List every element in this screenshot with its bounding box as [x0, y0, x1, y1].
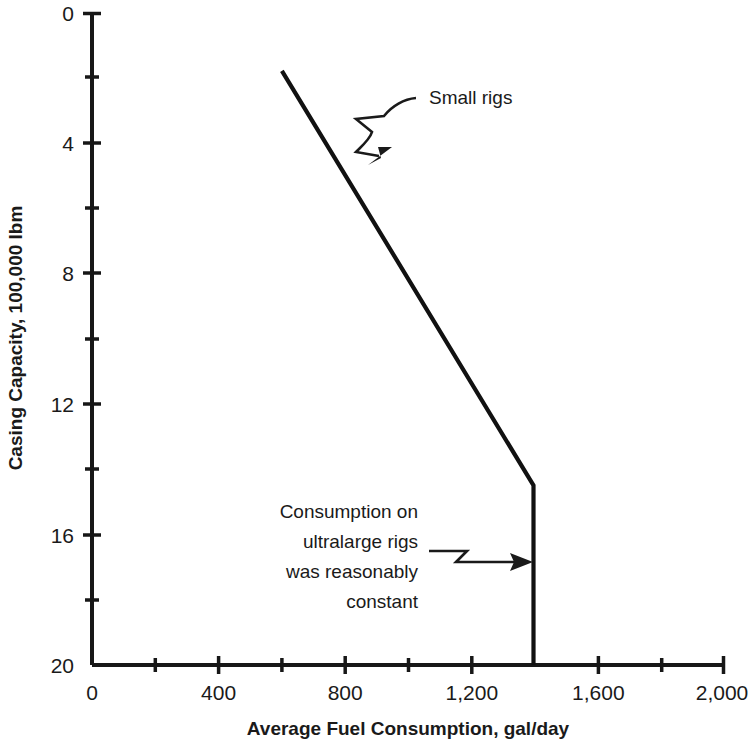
y-tick-label-4: 4	[62, 132, 74, 155]
annotation-ultralarge-rigs: Consumption on ultralarge rigs was reaso…	[280, 501, 533, 612]
y-axis-title: Casing Capacity, 100,000 lbm	[5, 206, 26, 471]
y-tick-label-20: 20	[51, 654, 74, 677]
y-tick-labels: 0 4 8 12 16 20	[51, 2, 75, 677]
annotation-ultralarge-line-3: was reasonably	[285, 561, 419, 582]
x-axis-title: Average Fuel Consumption, gal/day	[247, 718, 570, 739]
annotation-ultralarge-leader	[429, 551, 520, 562]
annotation-ultralarge-line-1: Consumption on	[280, 501, 418, 522]
chart-figure: 0 4 8 12 16 20 0 400 800 1,200 1,600 2,0…	[0, 0, 751, 743]
y-tick-label-16: 16	[51, 524, 74, 547]
annotation-ultralarge-line-4: constant	[346, 591, 419, 612]
annotation-ultralarge-line-2: ultralarge rigs	[303, 531, 418, 552]
x-tick-label-800: 800	[328, 681, 363, 704]
x-tick-label-1600: 1,600	[572, 681, 625, 704]
y-tick-label-0: 0	[62, 2, 74, 25]
annotation-small-rigs: Small rigs	[356, 87, 512, 165]
annotation-small-rigs-label: Small rigs	[429, 87, 512, 108]
x-tick-label-0: 0	[86, 681, 98, 704]
y-tick-label-12: 12	[51, 393, 74, 416]
x-tick-label-400: 400	[201, 681, 236, 704]
y-tick-label-8: 8	[62, 262, 74, 285]
x-tick-labels: 0 400 800 1,200 1,600 2,000	[86, 681, 748, 704]
fuel-consumption-chart: 0 4 8 12 16 20 0 400 800 1,200 1,600 2,0…	[0, 0, 751, 743]
x-tick-label-1200: 1,200	[446, 681, 499, 704]
x-tick-label-2000: 2,000	[696, 681, 749, 704]
